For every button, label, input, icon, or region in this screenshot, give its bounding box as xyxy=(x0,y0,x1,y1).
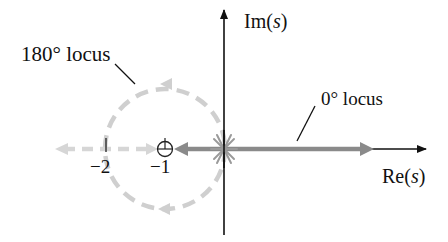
arrow-right-icon xyxy=(146,143,158,155)
root-locus-plot xyxy=(0,0,448,242)
real-axis-var: s xyxy=(411,165,419,187)
imag-axis-name: Im xyxy=(244,10,266,32)
arrow-left-icon xyxy=(158,203,170,215)
tick-label-minus-2: −2 xyxy=(90,157,110,176)
locus-0-label: 0° locus xyxy=(321,89,383,108)
real-axis-name: Re xyxy=(382,165,404,187)
circle-zero-icon xyxy=(158,138,173,157)
arrow-left-icon xyxy=(174,142,188,156)
imag-axis-var: s xyxy=(273,10,281,32)
arrow-left-icon xyxy=(55,143,68,155)
tick-label-minus-1: −1 xyxy=(150,157,170,176)
real-axis-label: Re(s) xyxy=(382,166,425,186)
imaginary-axis-label: Im(s) xyxy=(244,11,287,31)
locus-180-label: 180° locus xyxy=(21,44,110,65)
locus-0-segment xyxy=(174,142,374,156)
locus-0-leader xyxy=(297,106,315,141)
root-locus-diagram: 180° locus 0° locus Im(s) Re(s) −2 −1 xyxy=(0,0,448,242)
locus-180-leader xyxy=(115,64,135,84)
arrow-right-icon xyxy=(360,142,374,156)
